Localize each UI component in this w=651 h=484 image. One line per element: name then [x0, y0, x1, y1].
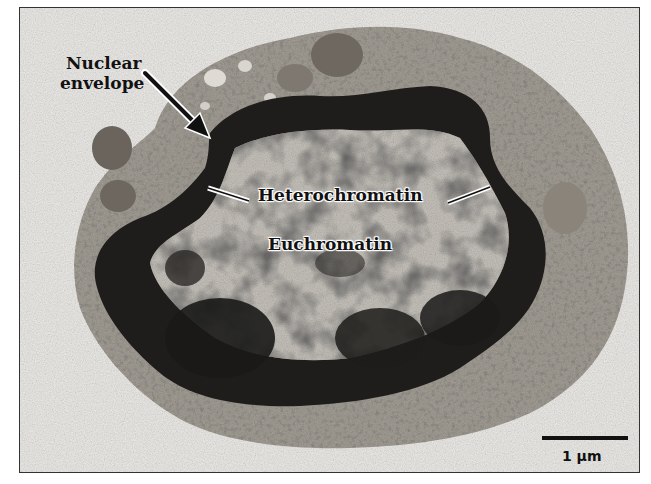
- nuclear-envelope-label: Nuclear envelope: [60, 53, 144, 93]
- scale-bar-label: 1 µm: [562, 448, 602, 464]
- label-line-2: envelope: [60, 73, 144, 93]
- scale-bar: [542, 436, 628, 440]
- mitochondrion: [277, 64, 313, 92]
- mitochondrion: [543, 182, 587, 234]
- mitochondrion: [311, 33, 363, 77]
- euchromatin-label: Euchromatin: [268, 234, 392, 254]
- heterochromatin-label: Heterochromatin: [258, 185, 423, 205]
- mitochondrion: [100, 180, 136, 212]
- mitochondrion: [92, 126, 132, 170]
- micrograph-frame: Nuclear envelope Heterochromatin Euchrom…: [19, 7, 640, 473]
- label-line-1: Nuclear: [60, 53, 144, 73]
